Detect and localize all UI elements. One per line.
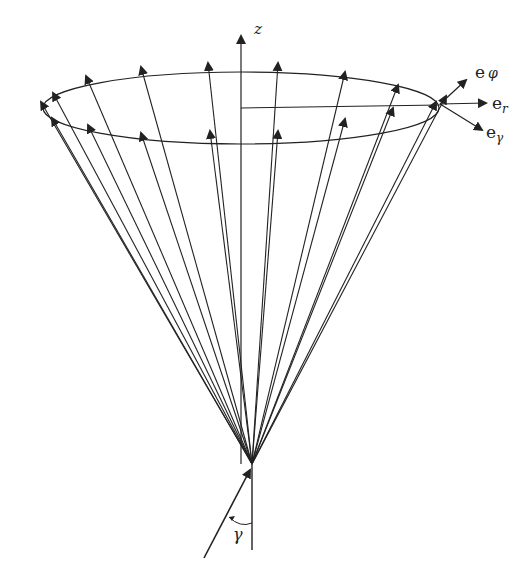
basis-vectors — [440, 80, 486, 130]
e-gamma-label: eγ — [486, 122, 504, 145]
gamma-angle-label: γ — [233, 525, 243, 544]
back-vectors — [41, 63, 446, 464]
incident-vector — [204, 470, 250, 558]
e-phi-vector — [440, 80, 466, 104]
e-r-label: er — [492, 93, 509, 116]
z-axis-label: z — [253, 20, 262, 38]
e-phi-label: eφ — [475, 62, 498, 82]
e-gamma-vector — [440, 104, 482, 130]
front-vectors — [52, 102, 436, 464]
cone-diagram: z eφ er eγ γ — [0, 0, 529, 570]
radius-line — [241, 105, 440, 108]
e-r-vector — [440, 103, 486, 104]
